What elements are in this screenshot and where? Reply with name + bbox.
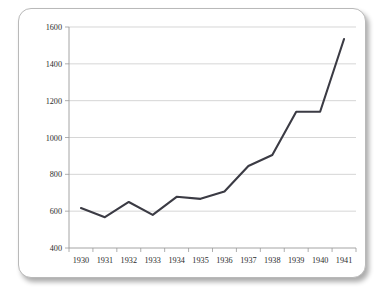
y-tick-label: 1200 xyxy=(46,97,62,106)
y-tick-label: 1600 xyxy=(46,23,62,32)
x-tick-label: 1934 xyxy=(168,256,184,265)
y-axis-labels-group: 4006008001000120014001600 xyxy=(46,23,62,253)
x-tick-label: 1935 xyxy=(192,256,208,265)
x-tick-label: 1940 xyxy=(312,256,328,265)
y-tick-label: 600 xyxy=(50,207,62,216)
y-tick-label: 1400 xyxy=(46,60,62,69)
y-tick-marks-group xyxy=(65,27,69,248)
x-tick-label: 1937 xyxy=(240,256,256,265)
x-tick-label: 1932 xyxy=(121,256,137,265)
x-tick-label: 1933 xyxy=(145,256,161,265)
x-tick-label: 1930 xyxy=(73,256,89,265)
gridlines-group xyxy=(69,27,356,211)
y-tick-label: 400 xyxy=(50,244,62,253)
y-tick-label: 800 xyxy=(50,170,62,179)
data-series-line xyxy=(81,39,344,217)
chart-plot-area: 4006008001000120014001600 19301931193219… xyxy=(19,9,367,279)
x-tick-label: 1938 xyxy=(264,256,280,265)
x-tick-label: 1936 xyxy=(216,256,232,265)
x-tick-label: 1939 xyxy=(288,256,304,265)
chart-card: 4006008001000120014001600 19301931193219… xyxy=(18,8,366,278)
x-tick-label: 1941 xyxy=(336,256,352,265)
y-tick-label: 1000 xyxy=(46,134,62,143)
x-axis-labels-group: 1930193119321933193419351936193719381939… xyxy=(73,256,352,265)
x-tick-label: 1931 xyxy=(97,256,113,265)
x-tick-marks-group xyxy=(69,248,356,252)
line-chart: 4006008001000120014001600 19301931193219… xyxy=(19,9,367,279)
